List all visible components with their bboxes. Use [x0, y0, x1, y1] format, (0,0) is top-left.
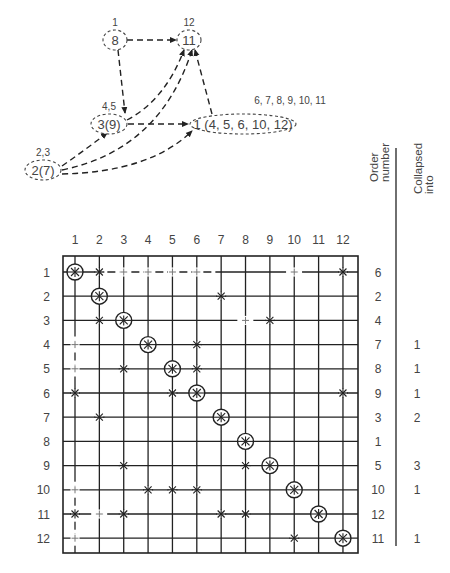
column-label: 2	[96, 233, 103, 247]
order-number-cell: 7	[375, 338, 382, 352]
node-label: 3(9)	[97, 117, 120, 132]
nonzero-mark	[94, 413, 104, 422]
nonzero-mark	[70, 510, 80, 519]
nonzero-mark	[70, 389, 80, 398]
nonzero-mark	[338, 389, 348, 398]
pivot-mark	[67, 264, 83, 280]
column-label: 11	[312, 233, 325, 247]
fill-in-mark	[144, 268, 153, 277]
row-label: 5	[43, 362, 50, 376]
row-label: 9	[43, 459, 50, 473]
edge-n2-to-n3	[62, 133, 107, 166]
pivot-mark	[189, 385, 205, 401]
pivot-mark	[164, 361, 180, 377]
order-number-cell: 12	[371, 508, 385, 522]
row-label: 8	[43, 435, 50, 449]
order-number-cell: 9	[375, 387, 382, 401]
order-number-cell: 4	[375, 314, 382, 328]
row-label: 6	[43, 387, 50, 401]
collapsed-into-cell: 1	[414, 387, 421, 401]
nonzero-mark	[94, 316, 104, 325]
collapsed-into-cell: 3	[414, 459, 421, 473]
fill-in-mark	[290, 268, 299, 277]
row-label: 12	[37, 532, 51, 546]
collapsed-into-cell: 1	[414, 362, 421, 376]
fill-in-mark	[241, 316, 250, 325]
matrix-entries	[67, 264, 351, 546]
column-label: 3	[120, 233, 127, 247]
row-label: 3	[43, 314, 50, 328]
order-number-column: 624789315101211	[371, 266, 385, 546]
column-label: 12	[336, 233, 350, 247]
pivot-mark	[91, 288, 107, 304]
nonzero-mark	[94, 268, 104, 277]
row-label: 4	[43, 338, 50, 352]
column-labels: 123456789101112	[72, 233, 350, 247]
column-label: 1	[72, 233, 79, 247]
fill-in-mark	[71, 364, 80, 373]
pivot-mark	[335, 530, 351, 546]
fill-in-mark	[71, 485, 80, 494]
edge-n1-to-n11	[195, 50, 212, 114]
row-label: 7	[43, 411, 50, 425]
fill-in-mark	[168, 268, 177, 277]
order-number-cell: 11	[372, 532, 385, 546]
order-number-cell: 8	[375, 362, 382, 376]
node-label: 8	[111, 33, 118, 48]
row-label: 11	[38, 508, 51, 522]
order-number-cell: 1	[375, 435, 382, 449]
sparse-matrix: 123456789101112 123456789101112	[37, 233, 358, 553]
node-annotation: 2,3	[36, 147, 50, 158]
row-labels: 123456789101112	[37, 266, 51, 546]
edge-n3-to-n11	[127, 50, 184, 120]
graph-node-n3: 3(9)4,5	[91, 101, 127, 134]
fill-in-dashes	[75, 272, 302, 546]
graph-node-n2: 2(7)2,3	[25, 147, 61, 180]
node-annotation: 12	[183, 17, 195, 28]
fill-in-mark	[71, 340, 80, 349]
side-table: Ordernumber Collapsedinto 62478931510121…	[368, 143, 435, 546]
column-label: 4	[145, 233, 152, 247]
nonzero-mark	[338, 268, 348, 277]
graph-node-n1: 1 (4, 5, 6, 10, 12)6, 7, 8, 9, 10, 11	[190, 95, 326, 134]
order-number-cell: 5	[375, 459, 382, 473]
pivot-mark	[286, 482, 302, 498]
collapsed-into-header: Collapsedinto	[412, 143, 435, 194]
nonzero-mark	[192, 485, 202, 494]
nonzero-mark	[192, 340, 202, 349]
nonzero-mark	[192, 364, 202, 373]
nonzero-mark	[241, 461, 251, 470]
row-label: 10	[37, 483, 51, 497]
order-number-cell: 6	[375, 266, 382, 280]
nonzero-mark	[216, 292, 226, 301]
fill-in-mark	[95, 510, 104, 519]
order-number-cell: 10	[371, 483, 385, 497]
fill-in-mark	[192, 268, 201, 277]
nonzero-mark	[119, 461, 129, 470]
pivot-mark	[213, 409, 229, 425]
nonzero-mark	[241, 510, 251, 519]
collapsed-into-cell: 1	[414, 532, 421, 546]
graph-nodes: 8111123(9)4,51 (4, 5, 6, 10, 12)6, 7, 8,…	[25, 17, 326, 180]
node-annotation: 4,5	[102, 101, 116, 112]
elimination-diagram: 8111123(9)4,51 (4, 5, 6, 10, 12)6, 7, 8,…	[0, 0, 450, 573]
column-label: 5	[169, 233, 176, 247]
row-label: 2	[43, 290, 50, 304]
pivot-mark	[262, 458, 278, 474]
nonzero-mark	[119, 510, 129, 519]
edge-n8-to-n3	[118, 50, 125, 113]
pivot-mark	[140, 337, 156, 353]
order-number-cell: 3	[375, 411, 382, 425]
nonzero-mark	[119, 364, 129, 373]
row-label: 1	[43, 266, 50, 280]
column-label: 8	[242, 233, 249, 247]
node-annotation: 6, 7, 8, 9, 10, 11	[254, 95, 326, 106]
nonzero-mark	[216, 510, 226, 519]
order-number-cell: 2	[375, 290, 382, 304]
nonzero-mark	[143, 485, 153, 494]
node-label: 1 (4, 5, 6, 10, 12)	[193, 117, 292, 132]
fill-in-mark	[119, 268, 128, 277]
collapsed-into-cell: 1	[414, 338, 421, 352]
pivot-mark	[116, 312, 132, 328]
nonzero-mark	[265, 316, 275, 325]
